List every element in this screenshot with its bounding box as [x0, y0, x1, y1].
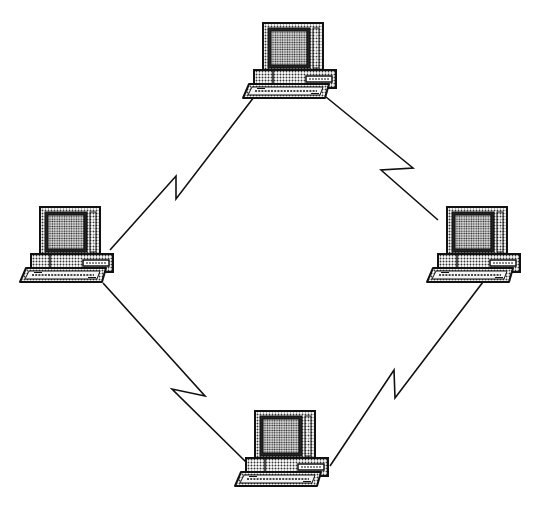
- desktop-computer-icon: [243, 23, 336, 98]
- link-right-bottom: [330, 282, 483, 466]
- link-left-bottom: [103, 283, 247, 463]
- link-top-right: [326, 97, 438, 220]
- node-right-computer: [427, 207, 520, 282]
- link-left-top: [110, 97, 254, 250]
- network-diagram: [0, 0, 546, 512]
- node-top-computer: [243, 23, 336, 98]
- desktop-computer-icon: [235, 411, 328, 486]
- desktop-computer-icon: [427, 207, 520, 282]
- desktop-computer-icon: [20, 207, 113, 282]
- node-bottom-computer: [235, 411, 328, 486]
- node-left-computer: [20, 207, 113, 282]
